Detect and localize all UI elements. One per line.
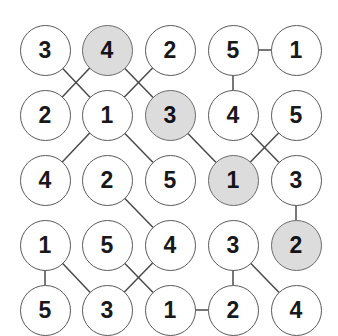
graph-node-2[interactable]: 2 [208, 285, 259, 336]
graph-node-label: 4 [101, 39, 114, 62]
graph-node-2[interactable]: 2 [271, 220, 322, 271]
graph-node-label: 3 [39, 39, 52, 62]
graph-node-label: 2 [39, 104, 52, 127]
graph-node-label: 3 [101, 299, 114, 322]
graph-node-1[interactable]: 1 [271, 25, 322, 76]
graph-node-5[interactable]: 5 [20, 285, 71, 336]
graph-node-label: 4 [39, 169, 52, 192]
graph-node-4[interactable]: 4 [208, 90, 259, 141]
graph-node-3[interactable]: 3 [208, 220, 259, 271]
graph-node-label: 5 [227, 39, 240, 62]
graph-node-4[interactable]: 4 [82, 25, 133, 76]
graph-node-3[interactable]: 3 [20, 25, 71, 76]
graph-node-label: 5 [39, 299, 52, 322]
graph-node-label: 2 [101, 169, 114, 192]
graph-node-label: 3 [164, 104, 177, 127]
graph-node-label: 4 [227, 104, 240, 127]
graph-node-5[interactable]: 5 [82, 220, 133, 271]
graph-node-1[interactable]: 1 [82, 90, 133, 141]
graph-node-label: 4 [164, 234, 177, 257]
graph-node-1[interactable]: 1 [20, 220, 71, 271]
graph-node-label: 1 [39, 234, 52, 257]
graph-node-1[interactable]: 1 [208, 155, 259, 206]
graph-node-label: 1 [164, 299, 177, 322]
graph-node-label: 2 [164, 39, 177, 62]
graph-node-label: 1 [101, 104, 114, 127]
graph-node-5[interactable]: 5 [208, 25, 259, 76]
graph-node-2[interactable]: 2 [20, 90, 71, 141]
graph-node-label: 1 [227, 169, 240, 192]
graph-node-4[interactable]: 4 [271, 285, 322, 336]
graph-node-label: 5 [164, 169, 177, 192]
graph-node-3[interactable]: 3 [271, 155, 322, 206]
graph-node-label: 4 [290, 299, 303, 322]
graph-node-label: 1 [290, 39, 303, 62]
graph-node-2[interactable]: 2 [82, 155, 133, 206]
graph-node-3[interactable]: 3 [145, 90, 196, 141]
graph-node-label: 5 [101, 234, 114, 257]
graph-node-4[interactable]: 4 [20, 155, 71, 206]
graph-node-label: 2 [227, 299, 240, 322]
graph-node-5[interactable]: 5 [271, 90, 322, 141]
graph-node-1[interactable]: 1 [145, 285, 196, 336]
graph-node-4[interactable]: 4 [145, 220, 196, 271]
graph-node-5[interactable]: 5 [145, 155, 196, 206]
graph-node-3[interactable]: 3 [82, 285, 133, 336]
graph-node-label: 2 [290, 234, 303, 257]
graph-node-label: 5 [290, 104, 303, 127]
graph-node-label: 3 [290, 169, 303, 192]
graph-node-label: 3 [227, 234, 240, 257]
graph-node-2[interactable]: 2 [145, 25, 196, 76]
